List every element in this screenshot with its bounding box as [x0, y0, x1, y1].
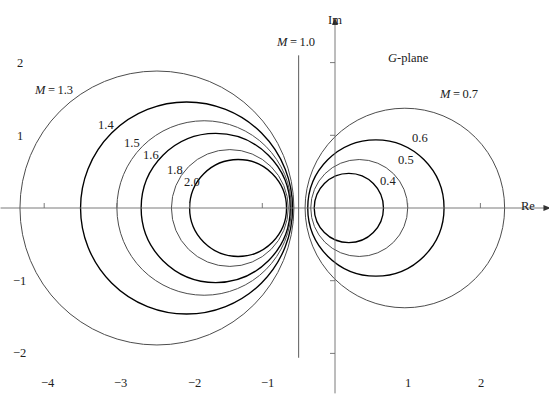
curve-label-m-0-5-value: 0.5 — [398, 153, 414, 167]
curve-label-m-1-8-value: 1.8 — [167, 163, 183, 177]
m-circle-figure: −4 −3 −2 −1 1 2 2 1 −1 −2 Im Re G-plane … — [0, 0, 549, 410]
curve-label-m-2-0: 2.0 — [184, 176, 200, 189]
curve-label-m-0-7: M = 0.7 — [440, 88, 478, 101]
g-plane-label: G-plane — [388, 52, 428, 65]
curve-label-m-1-0-value: 1.0 — [299, 35, 315, 49]
axis-title-im: Im — [328, 14, 342, 27]
g-plane-label-rest: -plane — [397, 51, 428, 65]
x-tick-label--3: −3 — [114, 377, 127, 390]
x-tick-label--1: −1 — [261, 377, 274, 390]
curve-label-m-1-8: 1.8 — [167, 164, 183, 177]
axes-group — [1, 19, 549, 393]
curve-label-m-0-6-value: 0.6 — [412, 131, 428, 145]
x-tick-label-1: 1 — [405, 377, 411, 390]
g-plane-label-italic: G — [388, 51, 397, 65]
curve-label-m-1-5-value: 1.5 — [124, 136, 140, 150]
x-tick-label--4: −4 — [41, 377, 54, 390]
curve-label-m-1-4: 1.4 — [98, 119, 114, 132]
y-tick-label-2: 2 — [17, 57, 23, 70]
x-tick-label--2: −2 — [188, 377, 201, 390]
curve-label-m-1-3: M = 1.3 — [35, 84, 73, 97]
curve-label-m-1-5: 1.5 — [124, 137, 140, 150]
curve-label-m-1-4-value: 1.4 — [98, 118, 114, 132]
curve-label-m-0-7-value: 0.7 — [462, 87, 478, 101]
y-tick-label--1: −1 — [13, 275, 26, 288]
x-tick-label-2: 2 — [478, 377, 484, 390]
curve-label-m-1-0: M = 1.0 — [277, 36, 315, 49]
y-tick-label--2: −2 — [13, 347, 26, 360]
curve-label-m-1-6-value: 1.6 — [143, 148, 159, 162]
curve-label-m-2-0-value: 2.0 — [184, 175, 200, 189]
curve-label-m-1-6: 1.6 — [143, 149, 159, 162]
curve-label-m-1-3-value: 1.3 — [57, 83, 73, 97]
curve-label-m-0-6: 0.6 — [412, 132, 428, 145]
axis-title-re: Re — [521, 200, 535, 213]
curve-label-m-0-5: 0.5 — [398, 154, 414, 167]
plot-canvas — [0, 0, 549, 410]
curve-label-m-0-4: 0.4 — [380, 175, 396, 188]
y-tick-label-1: 1 — [17, 130, 23, 143]
curve-label-m-0-4-value: 0.4 — [380, 174, 396, 188]
